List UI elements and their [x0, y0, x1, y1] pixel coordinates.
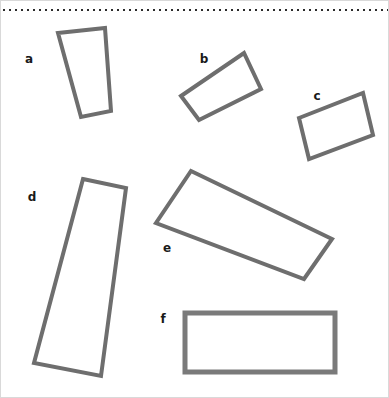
divider-dot [303, 9, 305, 11]
divider-dot [261, 9, 263, 11]
divider-dot [195, 9, 197, 11]
divider-dot [291, 9, 293, 11]
dotted-divider [3, 9, 389, 11]
divider-dot [327, 9, 329, 11]
divider-dot [357, 9, 359, 11]
quadrilateral-c [299, 93, 373, 159]
divider-dot [375, 9, 377, 11]
divider-dot [255, 9, 257, 11]
divider-dot [201, 9, 203, 11]
divider-dot [51, 9, 53, 11]
divider-dot [297, 9, 299, 11]
divider-dot [369, 9, 371, 11]
divider-dot [345, 9, 347, 11]
divider-dot [129, 9, 131, 11]
divider-dot [165, 9, 167, 11]
divider-dot [207, 9, 209, 11]
divider-dot [279, 9, 281, 11]
divider-dot [33, 9, 35, 11]
shape-label-e: e [163, 241, 171, 255]
divider-dot [315, 9, 317, 11]
divider-dot [159, 9, 161, 11]
divider-dot [15, 9, 17, 11]
divider-dot [219, 9, 221, 11]
divider-dot [249, 9, 251, 11]
divider-dot [267, 9, 269, 11]
quadrilateral-a [58, 28, 111, 117]
divider-dot [351, 9, 353, 11]
divider-dot [3, 9, 5, 11]
divider-dot [87, 9, 89, 11]
divider-dot [285, 9, 287, 11]
shape-label-collection: abcdef [25, 52, 321, 326]
divider-dot [177, 9, 179, 11]
shape-label-a: a [25, 52, 33, 66]
divider-dot [237, 9, 239, 11]
divider-dot [321, 9, 323, 11]
divider-dot [363, 9, 365, 11]
divider-dot [147, 9, 149, 11]
divider-dot [333, 9, 335, 11]
divider-dot [141, 9, 143, 11]
divider-dot [57, 9, 59, 11]
divider-dot [339, 9, 341, 11]
divider-dot [63, 9, 65, 11]
quadrilateral-b [181, 53, 261, 120]
divider-dot [381, 9, 383, 11]
quadrilateral-f [185, 313, 335, 372]
divider-dot [45, 9, 47, 11]
divider-dot [93, 9, 95, 11]
divider-dot [135, 9, 137, 11]
divider-dot [75, 9, 77, 11]
divider-dot [81, 9, 83, 11]
divider-dot [111, 9, 113, 11]
shape-label-d: d [28, 190, 37, 204]
divider-dot [183, 9, 185, 11]
figure-canvas: abcdef [0, 0, 389, 398]
divider-dot [171, 9, 173, 11]
divider-dot [69, 9, 71, 11]
figure-svg: abcdef [1, 1, 389, 398]
shape-label-f: f [160, 312, 166, 326]
divider-dot [27, 9, 29, 11]
divider-dot [123, 9, 125, 11]
divider-dot [189, 9, 191, 11]
divider-dot [117, 9, 119, 11]
quadrilateral-d [34, 179, 126, 376]
divider-dot [213, 9, 215, 11]
shape-label-c: c [313, 89, 320, 103]
divider-dot [153, 9, 155, 11]
divider-dot [225, 9, 227, 11]
divider-dot [273, 9, 275, 11]
divider-dot [9, 9, 11, 11]
divider-dot [105, 9, 107, 11]
divider-dot [99, 9, 101, 11]
divider-dot [309, 9, 311, 11]
quadrilateral-e [156, 171, 332, 279]
divider-dot [39, 9, 41, 11]
shape-collection [34, 28, 373, 376]
divider-dot [243, 9, 245, 11]
divider-dot [231, 9, 233, 11]
divider-dot [21, 9, 23, 11]
shape-label-b: b [200, 52, 209, 66]
